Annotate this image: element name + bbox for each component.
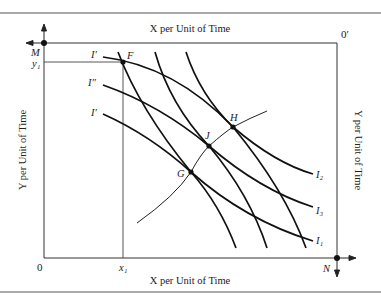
point-g bbox=[188, 169, 193, 174]
origin-label: 0 bbox=[37, 261, 43, 273]
curve-label-i3: I₃ bbox=[315, 205, 323, 216]
point-j-label: J bbox=[205, 130, 211, 141]
corner-m-dot bbox=[41, 40, 47, 46]
curve-label-i-double-prime: I″ bbox=[87, 77, 96, 88]
corner-m-label: M bbox=[30, 47, 41, 58]
point-j bbox=[206, 143, 211, 148]
y1-label: y₁ bbox=[31, 58, 40, 69]
point-h-label: H bbox=[229, 112, 239, 123]
top-axis-label: X per Unit of Time bbox=[150, 23, 231, 34]
corner-n-label: N bbox=[322, 263, 331, 274]
bottom-axis-label: X per Unit of Time bbox=[150, 275, 231, 286]
curve-label-i1: I₁ bbox=[315, 235, 323, 246]
indifference-curves-origin-prime bbox=[118, 52, 306, 248]
edgeworth-box-diagram: X per Unit of Time X per Unit of Time Y … bbox=[0, 0, 381, 306]
origin-prime-label: 0′ bbox=[341, 28, 349, 40]
contract-curve bbox=[137, 111, 267, 223]
point-g-label: G bbox=[177, 168, 185, 179]
point-f bbox=[120, 59, 125, 64]
indifference-curves-origin bbox=[103, 57, 313, 241]
curve-label-i-prime-bottom: I′ bbox=[90, 107, 97, 118]
right-axis-label: Y per Unit of Time bbox=[353, 110, 364, 190]
curve-i2 bbox=[103, 57, 313, 174]
point-h bbox=[230, 124, 235, 129]
box-frame bbox=[44, 43, 337, 258]
x1-label: x₁ bbox=[118, 262, 127, 273]
curve-label-i2: I₂ bbox=[315, 169, 323, 180]
corner-n-dot bbox=[334, 255, 340, 261]
curve-label-i-prime-top: I′ bbox=[90, 49, 97, 60]
point-f-label: F bbox=[126, 50, 134, 61]
left-axis-label: Y per Unit of Time bbox=[17, 110, 28, 190]
